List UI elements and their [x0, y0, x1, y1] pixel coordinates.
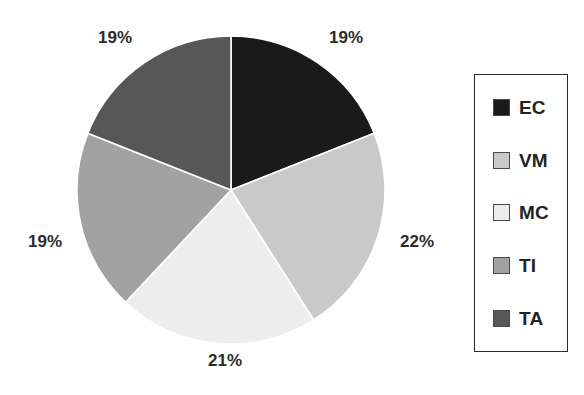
- legend-item-ec[interactable]: EC: [493, 90, 546, 124]
- pie-chart-figure: 19%22%21%19%19% ECVMMCTITA: [0, 0, 584, 395]
- legend-item-ti[interactable]: TI: [493, 249, 536, 283]
- pie-data-label-vm: 22%: [400, 232, 434, 252]
- legend-swatch-ti-icon: [493, 257, 510, 274]
- legend-label-vm: VM: [519, 151, 548, 170]
- pie-data-label-ti: 19%: [28, 232, 62, 252]
- legend-item-ta[interactable]: TA: [493, 302, 543, 336]
- pie-data-label-ta: 19%: [98, 28, 132, 48]
- pie-data-label-mc: 21%: [208, 351, 242, 371]
- legend-label-mc: MC: [519, 203, 549, 222]
- legend-swatch-ta-icon: [493, 310, 510, 327]
- pie-data-label-ec: 19%: [329, 28, 363, 48]
- pie-slice-group: [77, 36, 385, 344]
- chart-legend: ECVMMCTITA: [474, 74, 568, 352]
- legend-label-ta: TA: [519, 309, 543, 328]
- legend-swatch-vm-icon: [493, 152, 510, 169]
- legend-item-list: ECVMMCTITA: [475, 75, 567, 351]
- legend-label-ti: TI: [519, 256, 536, 275]
- legend-swatch-ec-icon: [493, 99, 510, 116]
- legend-swatch-mc-icon: [493, 204, 510, 221]
- legend-item-mc[interactable]: MC: [493, 196, 549, 230]
- pie-chart-svg: [0, 0, 470, 395]
- legend-label-ec: EC: [519, 98, 546, 117]
- legend-item-vm[interactable]: VM: [493, 143, 548, 177]
- pie-chart-plot-area: 19%22%21%19%19%: [0, 0, 470, 395]
